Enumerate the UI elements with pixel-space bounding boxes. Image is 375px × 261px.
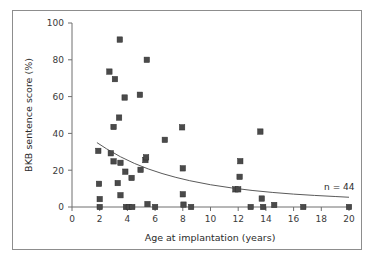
- data-point: [111, 124, 116, 129]
- x-axis-title: Age at implantation (years): [145, 232, 276, 243]
- data-point: [145, 201, 150, 206]
- y-tick-label: 20: [53, 166, 65, 176]
- data-point: [179, 125, 184, 130]
- axes-group: [72, 23, 349, 207]
- y-tick-label: 60: [53, 92, 65, 102]
- data-point: [112, 76, 117, 81]
- data-point: [115, 180, 120, 185]
- data-points-group: [96, 37, 352, 210]
- y-tick-label: 0: [58, 202, 64, 212]
- x-tick-label: 14: [260, 214, 272, 224]
- data-point: [137, 92, 142, 97]
- x-tick-label: 18: [316, 214, 328, 224]
- data-point: [181, 202, 186, 207]
- x-tick-label: 8: [180, 214, 186, 224]
- x-axis-ticks: 02468101214161820: [69, 207, 355, 224]
- data-point: [152, 204, 157, 209]
- annotations-group: n = 44: [324, 182, 355, 192]
- data-point: [111, 159, 116, 164]
- data-point: [258, 129, 263, 134]
- data-point: [123, 169, 128, 174]
- data-point: [259, 196, 264, 201]
- x-tick-label: 4: [125, 214, 131, 224]
- y-axis-title: BKB sentence score (%): [23, 58, 34, 172]
- data-point: [117, 37, 122, 42]
- x-tick-label: 2: [97, 214, 103, 224]
- data-point: [138, 167, 143, 172]
- data-point: [144, 57, 149, 62]
- data-point: [180, 166, 185, 171]
- data-point: [118, 160, 123, 165]
- data-point: [107, 69, 112, 74]
- x-tick-label: 10: [205, 214, 217, 224]
- y-axis-ticks: 020406080100: [47, 18, 72, 212]
- y-tick-label: 40: [53, 129, 65, 139]
- data-point: [237, 174, 242, 179]
- x-tick-label: 16: [288, 214, 300, 224]
- data-point: [97, 204, 102, 209]
- scatter-plot: 020406080100 02468101214161820 n = 44 Ag…: [0, 0, 375, 261]
- data-point: [122, 95, 127, 100]
- data-point: [236, 187, 241, 192]
- data-point: [180, 192, 185, 197]
- data-point: [238, 158, 243, 163]
- trend-line-group: [97, 143, 349, 198]
- x-tick-label: 12: [232, 214, 243, 224]
- x-tick-label: 20: [343, 214, 355, 224]
- data-point: [97, 196, 102, 201]
- y-tick-label: 100: [47, 18, 64, 28]
- data-point: [188, 204, 193, 209]
- x-tick-label: 0: [69, 214, 75, 224]
- data-point: [260, 204, 265, 209]
- data-point: [248, 204, 253, 209]
- data-point: [130, 204, 135, 209]
- data-point: [116, 115, 121, 120]
- y-tick-label: 80: [53, 55, 65, 65]
- data-point: [143, 155, 148, 160]
- data-point: [96, 148, 101, 153]
- data-point: [129, 175, 134, 180]
- sample-size-annotation: n = 44: [324, 182, 355, 192]
- chart-figure: 020406080100 02468101214161820 n = 44 Ag…: [0, 0, 375, 261]
- data-point: [301, 204, 306, 209]
- data-point: [118, 193, 123, 198]
- data-point: [272, 202, 277, 207]
- data-point: [162, 137, 167, 142]
- x-tick-label: 6: [152, 214, 158, 224]
- trend-line: [97, 143, 349, 198]
- data-point: [96, 181, 101, 186]
- data-point: [346, 204, 351, 209]
- data-point: [108, 151, 113, 156]
